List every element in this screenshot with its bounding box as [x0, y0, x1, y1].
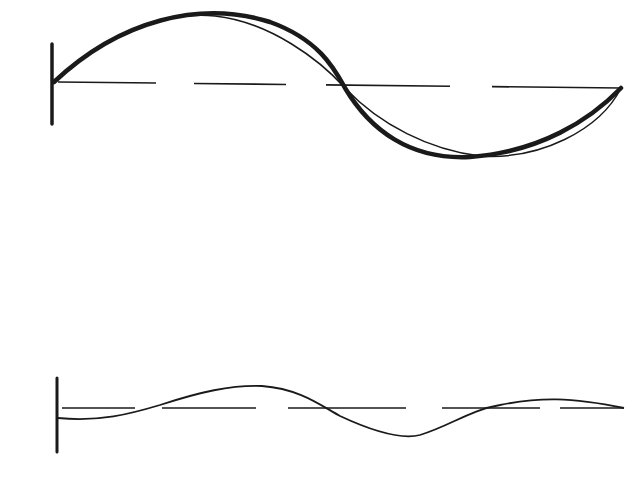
top-thin-curve: [54, 15, 621, 156]
bottom-figure: [57, 378, 624, 452]
bottom-curve: [58, 386, 624, 436]
baseline-dash: [492, 87, 620, 88]
top-figure: [52, 13, 621, 157]
baseline-dash: [194, 83, 286, 84]
baseline-dash: [58, 82, 156, 83]
mode-shape-diagram: [0, 0, 632, 481]
top-baseline-dashed: [58, 82, 620, 88]
